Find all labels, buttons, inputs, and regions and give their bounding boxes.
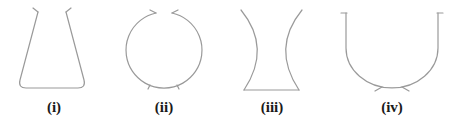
u-vessel-shape [341, 13, 443, 91]
label-iii: (iii) [242, 98, 302, 116]
flask-right-lip [66, 8, 71, 12]
concave-right-side [286, 10, 302, 90]
u-right-foot [402, 87, 409, 91]
label-ii: (ii) [134, 98, 194, 116]
conical-flask-shape [20, 8, 85, 88]
vessel-shapes-figure: (i) (ii) (iii) (iv) [0, 0, 452, 123]
label-iv: (iv) [362, 98, 422, 116]
u-left-foot [375, 87, 382, 91]
sphere-body [126, 13, 202, 88]
sphere-left-lip [150, 10, 156, 13]
u-body [346, 13, 438, 88]
label-i: (i) [24, 98, 84, 116]
concave-vessel-shape [241, 10, 302, 90]
concave-left-side [241, 10, 257, 90]
spherical-vessel-shape [126, 10, 202, 89]
sphere-right-lip [172, 10, 178, 13]
flask-left-lip [33, 8, 38, 12]
flask-body [20, 12, 85, 88]
